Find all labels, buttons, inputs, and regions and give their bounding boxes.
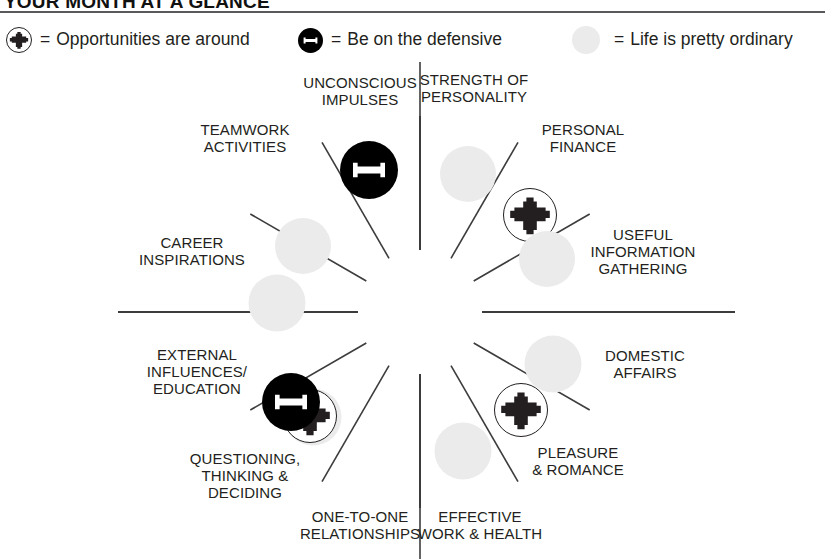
header-divider [0, 11, 825, 13]
legend-equals: = [40, 31, 50, 49]
sector-label-strength-of-personality: STRENGTH OF PERSONALITY [420, 72, 529, 106]
legend-equals: = [331, 31, 341, 49]
sector-label-effective-work-and-health: EFFECTIVE WORK & HEALTH [418, 509, 542, 543]
plus-icon [494, 383, 548, 437]
legend-item-opportunities: = Opportunities are around [6, 22, 250, 58]
dot-icon [275, 218, 331, 274]
legend-item-defensive: = Be on the defensive [298, 22, 502, 58]
legend-label: Opportunities are around [56, 31, 250, 49]
sector-label-useful-information-gathering: USEFUL INFORMATION GATHERING [591, 227, 696, 277]
dot-icon [435, 423, 492, 480]
legend-item-ordinary: = Life is pretty ordinary [572, 22, 793, 58]
legend-equals: = [614, 31, 624, 49]
minus-icon [340, 141, 398, 199]
minus-icon [262, 373, 320, 431]
dot-icon [519, 231, 575, 287]
plus-icon [6, 27, 32, 53]
dot-icon [440, 146, 496, 202]
minus-icon [298, 28, 323, 53]
dot-icon [249, 275, 306, 332]
legend: = Opportunities are around = Be on the d… [0, 22, 825, 58]
sector-label-questioning-thinking-deciding: QUESTIONING, THINKING & DECIDING [190, 451, 300, 501]
life-areas-wheel: UNCONSCIOUS IMPULSESSTRENGTH OF PERSONAL… [0, 56, 825, 559]
sector-label-unconscious-impulses: UNCONSCIOUS IMPULSES [303, 75, 417, 109]
dot-icon [572, 26, 600, 54]
sector-label-personal-finance: PERSONAL FINANCE [542, 122, 625, 156]
sector-label-teamwork-activities: TEAMWORK ACTIVITIES [200, 122, 289, 156]
sector-label-domestic-affairs: DOMESTIC AFFAIRS [605, 348, 685, 382]
sector-label-external-influences-education: EXTERNAL INFLUENCES/ EDUCATION [147, 347, 247, 397]
sector-label-one-to-one-relationships: ONE-TO-ONE RELATIONSHIPS [300, 509, 420, 543]
wheel-spokes [0, 56, 825, 559]
legend-label: Be on the defensive [347, 31, 502, 49]
sector-label-pleasure-and-romance: PLEASURE & ROMANCE [532, 445, 624, 479]
legend-label: Life is pretty ordinary [630, 31, 792, 49]
sector-label-career-inspirations: CAREER INSPIRATIONS [139, 235, 245, 269]
month-at-a-glance-page: YOUR MONTH AT A GLANCE = Opportunities a… [0, 0, 825, 559]
